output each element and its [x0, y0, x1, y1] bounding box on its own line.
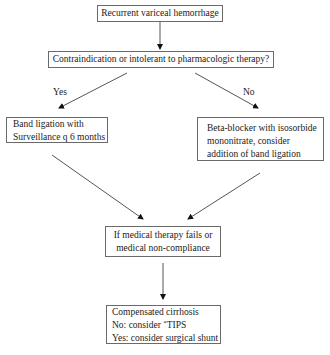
arrow-yes-to-band-ligation: [59, 73, 127, 108]
node-text: Yes: consider surgical shunt: [112, 332, 220, 345]
arrow-band-ligation-to-therapy-fails: [52, 155, 143, 219]
node-medical-therapy-fails: If medical therapy fails or medical non-…: [105, 226, 221, 257]
node-beta-blocker: Beta-blocker with isosorbide mononitrate…: [197, 117, 324, 161]
edge-label-no: No: [243, 87, 255, 97]
node-text: Surveillance q 6 months: [13, 131, 107, 144]
node-text: Beta-blocker with isosorbide: [207, 122, 323, 135]
edge-label-yes: Yes: [53, 87, 67, 97]
node-text: Recurrent variceal hemorrhage: [98, 7, 222, 20]
flowchart-canvas: Recurrent variceal hemorrhage Contraindi…: [0, 0, 330, 355]
node-text: mononitrate, consider: [207, 135, 323, 148]
node-recurrent-variceal-hemorrhage: Recurrent variceal hemorrhage: [97, 5, 223, 22]
node-text: Compensated cirrhosis: [112, 306, 220, 319]
node-text: Band ligation with: [13, 118, 107, 131]
node-text: No: consider: [112, 320, 163, 330]
node-text-tips: No: consider *TIPS: [112, 319, 220, 332]
node-text: If medical therapy fails or: [106, 229, 220, 242]
node-text: Contraindication or intolerant to pharma…: [49, 53, 273, 66]
node-text: TIPS: [167, 320, 187, 330]
footnote-marker: *: [163, 319, 167, 327]
node-compensated-cirrhosis: Compensated cirrhosis No: consider *TIPS…: [106, 305, 221, 344]
arrow-beta-blocker-to-therapy-fails: [188, 173, 260, 219]
node-band-ligation: Band ligation with Surveillance q 6 mont…: [6, 117, 108, 143]
node-text: addition of band ligation: [207, 148, 323, 161]
node-text: medical non-compliance: [106, 242, 220, 255]
node-contraindication-question: Contraindication or intolerant to pharma…: [48, 51, 274, 68]
